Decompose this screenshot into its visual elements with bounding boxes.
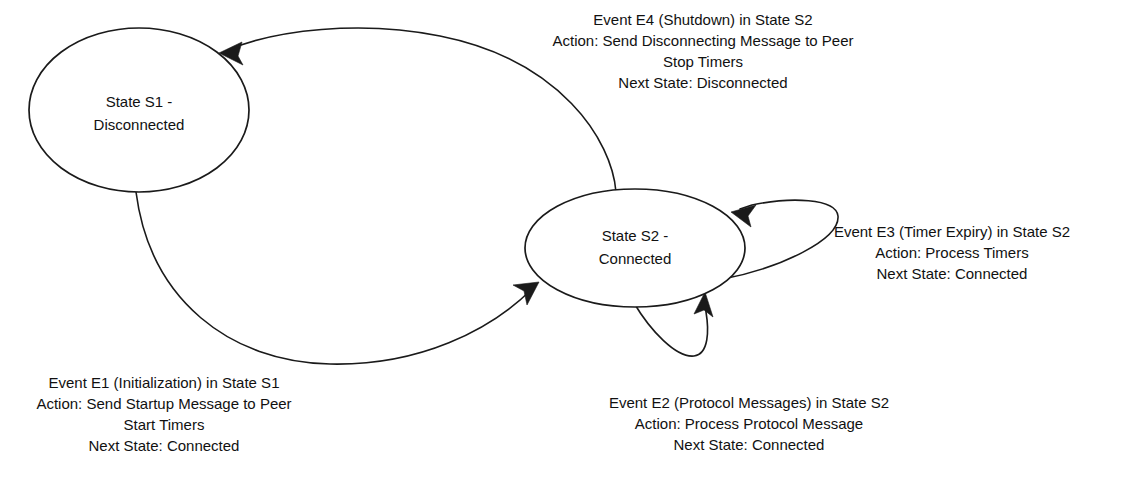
transition-label-e2: Event E2 (Protocol Messages) in State S2… xyxy=(609,394,889,453)
edge-path-e1 xyxy=(136,192,531,364)
transition-edge-e1[interactable] xyxy=(136,192,539,364)
transition-label-e4-line3: Stop Timers xyxy=(663,53,743,70)
transition-label-e4-line1: Event E4 (Shutdown) in State S2 xyxy=(593,11,812,28)
state-diagram-svg: State S1 - Disconnected State S2 - Conne… xyxy=(0,0,1124,480)
transition-label-e3-line2: Action: Process Timers xyxy=(875,244,1028,261)
transition-label-e2-line1: Event E2 (Protocol Messages) in State S2 xyxy=(609,394,889,411)
edge-path-e4 xyxy=(228,28,616,192)
state-node-s2[interactable]: State S2 - Connected xyxy=(525,189,745,307)
state-s1-label-line1: State S1 - xyxy=(106,93,173,110)
transition-label-e3: Event E3 (Timer Expiry) in State S2 Acti… xyxy=(834,223,1070,282)
arrowhead-e1 xyxy=(513,282,539,305)
state-s1-shape xyxy=(29,28,249,192)
transition-label-e3-line3: Next State: Connected xyxy=(877,265,1028,282)
transition-label-e4-line2: Action: Send Disconnecting Message to Pe… xyxy=(552,32,853,49)
transition-label-e2-line2: Action: Process Protocol Message xyxy=(635,415,863,432)
transition-label-e1-line4: Next State: Connected xyxy=(89,437,240,454)
state-s2-shape xyxy=(525,189,745,307)
transition-label-e1-line1: Event E1 (Initialization) in State S1 xyxy=(49,374,280,391)
transition-label-e1: Event E1 (Initialization) in State S1 Ac… xyxy=(36,374,291,454)
state-s2-label-line2: Connected xyxy=(599,250,672,267)
state-s1-label-line2: Disconnected xyxy=(94,116,185,133)
transition-label-e4-line4: Next State: Disconnected xyxy=(618,74,787,91)
transition-label-e1-line3: Start Timers xyxy=(124,416,205,433)
transition-edge-e4[interactable] xyxy=(219,28,616,192)
transition-label-e4: Event E4 (Shutdown) in State S2 Action: … xyxy=(552,11,853,91)
state-diagram-canvas: State S1 - Disconnected State S2 - Conne… xyxy=(0,0,1124,480)
state-s2-label-line1: State S2 - xyxy=(602,227,669,244)
transition-label-e1-line2: Action: Send Startup Message to Peer xyxy=(36,395,291,412)
state-node-s1[interactable]: State S1 - Disconnected xyxy=(29,28,249,192)
transition-label-e3-line1: Event E3 (Timer Expiry) in State S2 xyxy=(834,223,1070,240)
transition-label-e2-line3: Next State: Connected xyxy=(674,436,825,453)
